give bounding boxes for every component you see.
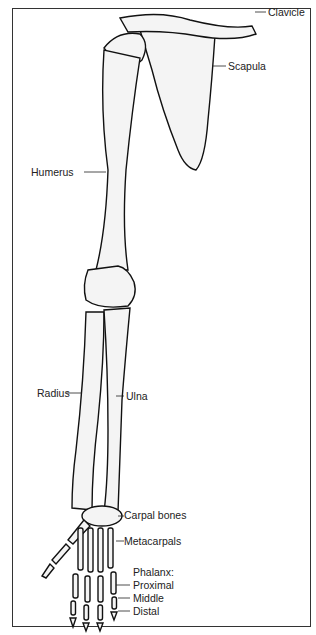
ulna-shape [104, 308, 130, 512]
label-proximal: Proximal [133, 580, 174, 591]
radius-shape [72, 312, 104, 510]
label-carpal-bones: Carpal bones [124, 510, 186, 521]
label-humerus: Humerus [31, 167, 74, 178]
humerus-shaft [96, 50, 140, 270]
thumb-distal [42, 564, 54, 578]
carpals-shape [82, 506, 122, 526]
label-ulna: Ulna [126, 391, 148, 402]
label-radius: Radius [37, 388, 70, 399]
label-phalanx: Phalanx: [133, 567, 174, 578]
elbow-joint [84, 266, 135, 307]
label-clavicle: Clavicle [268, 7, 305, 18]
label-metacarpals: Metacarpals [124, 536, 181, 547]
label-scapula: Scapula [228, 61, 266, 72]
scapula-shape [140, 28, 215, 170]
label-distal: Distal [133, 606, 159, 617]
thumb-proximal [52, 544, 70, 564]
label-middle: Middle [133, 593, 164, 604]
